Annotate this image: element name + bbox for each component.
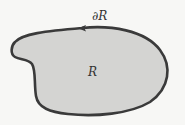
region-diagram: ∂R R	[0, 0, 185, 125]
region-label: R	[87, 65, 97, 79]
boundary-label: ∂R	[92, 9, 107, 23]
